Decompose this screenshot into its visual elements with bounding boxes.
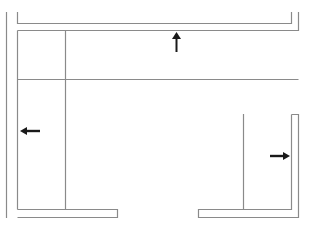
bottom-right-wall bbox=[199, 115, 299, 218]
top-wall-inner bbox=[18, 12, 292, 24]
top-wall-outer bbox=[18, 12, 299, 31]
arrow-left-icon bbox=[20, 127, 40, 135]
arrow-right-icon bbox=[270, 152, 290, 160]
bottom-left-wall bbox=[18, 210, 118, 218]
diagram-canvas bbox=[0, 0, 309, 225]
arrow-up-icon bbox=[172, 32, 181, 52]
floor-plan-diagram bbox=[0, 0, 309, 225]
